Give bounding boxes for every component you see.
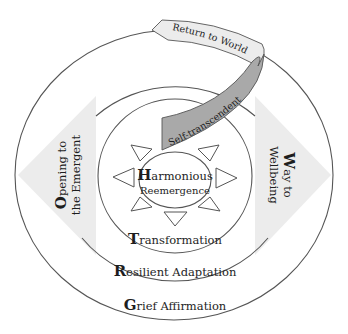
svg-text:Way to: Way to	[280, 151, 298, 197]
opening-to-emergent-label: Opening to the Emergent	[52, 134, 83, 215]
grief-affirmation-label: Grief Affirmation	[124, 296, 227, 314]
way-to-wellbeing-label: Way to Wellbeing	[267, 146, 298, 204]
resilient-adaptation-label: Resilient Adaptation	[114, 262, 237, 280]
hoping-model-diagram: Return to World Self-transcendent Harmon…	[0, 0, 348, 334]
core-label-line2: Reemergence	[140, 185, 210, 196]
core-label-line1: Harmonious	[137, 166, 213, 184]
svg-text:Opening to: Opening to	[52, 141, 70, 209]
svg-text:Wellbeing: Wellbeing	[267, 146, 281, 204]
svg-text:the Emergent: the Emergent	[69, 134, 83, 215]
transformation-label: Transformation	[128, 230, 222, 248]
